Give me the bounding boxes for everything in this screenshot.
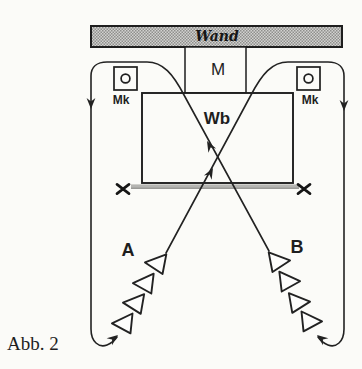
speaker-triangle-a3 bbox=[122, 292, 144, 314]
speaker-triangle-a2 bbox=[132, 272, 153, 293]
ground-line bbox=[131, 184, 299, 187]
diagram-canvas: Wand M Wb Mk Mk bbox=[0, 0, 362, 369]
group-b-label: B bbox=[291, 237, 304, 257]
m-box-label: M bbox=[211, 60, 225, 79]
speaker-chain-b bbox=[269, 250, 323, 332]
cross-marker-right bbox=[298, 184, 310, 193]
figure-abb2: Wand M Wb Mk Mk bbox=[0, 0, 362, 369]
wb-box bbox=[142, 93, 293, 183]
wb-box-label: Wb bbox=[204, 109, 230, 128]
mk-label-right: Mk bbox=[302, 93, 319, 107]
mk-label-left: Mk bbox=[113, 93, 130, 107]
group-a-label: A bbox=[122, 240, 135, 260]
mk-left-group: Mk bbox=[113, 67, 137, 107]
speaker-triangle-b2 bbox=[279, 270, 300, 291]
cross-marker-left bbox=[117, 184, 129, 193]
speaker-chain-a bbox=[111, 252, 166, 334]
figure-caption: Abb. 2 bbox=[7, 333, 59, 354]
arrowhead-bottom-right-icon bbox=[314, 332, 328, 346]
wall-label: Wand bbox=[195, 28, 239, 44]
speaker-triangle-a1 bbox=[144, 252, 167, 275]
speaker-triangle-a4 bbox=[111, 312, 132, 333]
mk-right-group: Mk bbox=[297, 67, 320, 107]
speaker-triangle-b4 bbox=[301, 310, 322, 331]
mk-circle-icon-right bbox=[304, 74, 313, 83]
speaker-triangle-b3 bbox=[289, 291, 311, 313]
arrowhead-bottom-left-icon bbox=[107, 332, 121, 346]
mk-circle-icon-left bbox=[121, 74, 130, 83]
speaker-triangle-b1 bbox=[269, 250, 292, 273]
